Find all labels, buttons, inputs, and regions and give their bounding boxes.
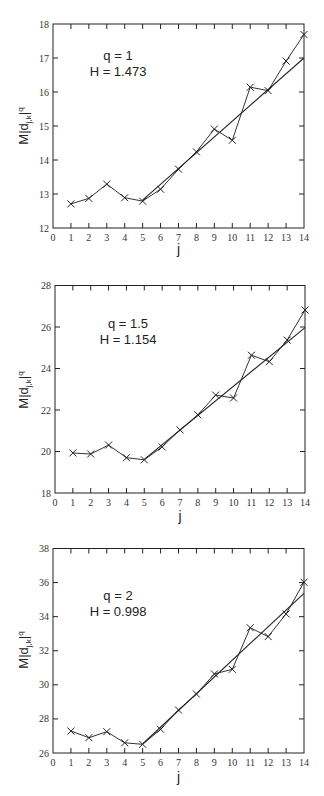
x-tick-label: 12: [263, 757, 273, 768]
chart-q2: 0123456789101112131426283032343638jM|dj,…: [0, 532, 324, 796]
fit-line: [143, 58, 304, 200]
y-tick-label: 16: [39, 87, 49, 98]
x-tick-label: 8: [194, 757, 199, 768]
annotation-q: q = 2: [103, 588, 132, 603]
y-tick-label: 26: [41, 322, 51, 333]
y-tick-label: 34: [39, 611, 49, 622]
x-tick-label: 3: [104, 757, 109, 768]
fit-line: [144, 328, 305, 460]
x-tick-label: 2: [86, 757, 91, 768]
data-point-marker: [103, 181, 110, 188]
x-tick-label: 4: [122, 232, 127, 243]
y-axis-label: M|dj,k|q: [16, 631, 33, 668]
y-tick-label: 15: [39, 121, 49, 132]
annotation-h: H = 1.154: [100, 332, 157, 347]
data-point-marker: [229, 137, 236, 144]
y-axis-label: M|dj,k|q: [16, 371, 33, 408]
x-tick-label: 9: [212, 232, 217, 243]
y-tick-label: 12: [39, 223, 49, 234]
chart-q1-5: 01234567891011121314182022242628jM|dj,k|…: [0, 270, 324, 532]
y-tick-label: 22: [41, 405, 51, 416]
x-tick-label: 2: [86, 232, 91, 243]
x-tick-label: 0: [53, 497, 58, 508]
data-point-marker: [67, 200, 74, 207]
x-tick-label: 0: [51, 757, 56, 768]
data-point-marker: [105, 442, 112, 449]
x-tick-label: 0: [51, 232, 56, 243]
data-point-marker: [103, 728, 110, 735]
data-point-marker: [283, 610, 290, 617]
x-tick-label: 6: [158, 232, 163, 243]
y-tick-label: 26: [39, 748, 49, 759]
annotation-h: H = 0.998: [90, 604, 147, 619]
data-point-marker: [265, 633, 272, 640]
annotation-q: q = 1: [103, 48, 132, 63]
x-axis-label: j: [177, 508, 181, 524]
x-tick-label: 7: [178, 497, 183, 508]
data-point-marker: [283, 58, 290, 65]
x-tick-label: 10: [227, 232, 237, 243]
x-tick-label: 4: [124, 497, 129, 508]
x-tick-label: 11: [247, 497, 257, 508]
x-tick-label: 4: [122, 757, 127, 768]
data-point-marker: [211, 126, 218, 133]
data-point-marker: [85, 734, 92, 741]
annotation-h: H = 1.473: [90, 64, 147, 79]
x-tick-label: 8: [194, 232, 199, 243]
x-tick-label: 14: [299, 757, 309, 768]
x-tick-label: 8: [195, 497, 200, 508]
x-tick-label: 1: [68, 232, 73, 243]
chart-q1: 0123456789101112131412131415161718jM|dj,…: [0, 0, 324, 270]
x-tick-label: 5: [140, 757, 145, 768]
x-tick-label: 5: [140, 232, 145, 243]
x-tick-label: 11: [245, 757, 255, 768]
x-tick-label: 9: [212, 757, 217, 768]
y-tick-label: 30: [39, 679, 49, 690]
y-tick-label: 18: [39, 19, 49, 30]
x-tick-label: 6: [158, 757, 163, 768]
x-tick-label: 10: [227, 757, 237, 768]
y-tick-label: 20: [41, 446, 51, 457]
data-point-marker: [247, 624, 254, 631]
y-tick-label: 24: [41, 363, 51, 374]
x-tick-label: 2: [88, 497, 93, 508]
x-tick-label: 1: [70, 497, 75, 508]
data-point-marker: [67, 728, 74, 735]
y-tick-label: 18: [41, 488, 51, 499]
x-tick-label: 6: [160, 497, 165, 508]
x-tick-label: 5: [142, 497, 147, 508]
y-tick-label: 28: [39, 713, 49, 724]
y-axis-label: M|dj,k|q: [16, 107, 33, 144]
data-point-marker: [85, 195, 92, 202]
y-tick-label: 32: [39, 645, 49, 656]
x-tick-label: 10: [229, 497, 239, 508]
x-tick-label: 14: [300, 497, 310, 508]
x-tick-label: 13: [282, 497, 292, 508]
y-tick-label: 14: [39, 155, 49, 166]
y-tick-label: 38: [39, 543, 49, 554]
data-point-marker: [248, 352, 255, 359]
x-tick-label: 13: [281, 232, 291, 243]
x-tick-label: 14: [299, 232, 309, 243]
x-axis-label: j: [176, 241, 180, 257]
data-point-marker: [229, 666, 236, 673]
x-tick-label: 12: [264, 497, 274, 508]
y-tick-label: 17: [39, 53, 49, 64]
x-tick-label: 3: [104, 232, 109, 243]
x-tick-label: 13: [281, 757, 291, 768]
x-tick-label: 3: [106, 497, 111, 508]
y-tick-label: 36: [39, 577, 49, 588]
x-tick-label: 11: [245, 232, 255, 243]
x-tick-label: 12: [263, 232, 273, 243]
y-tick-label: 28: [41, 280, 51, 291]
x-axis-label: j: [176, 769, 180, 785]
y-tick-label: 13: [39, 189, 49, 200]
x-tick-label: 1: [68, 757, 73, 768]
x-tick-label: 9: [213, 497, 218, 508]
annotation-q: q = 1.5: [108, 316, 148, 331]
x-tick-label: 7: [176, 757, 181, 768]
plot-frame: [53, 549, 304, 754]
fit-line: [143, 593, 304, 744]
plot-frame: [55, 286, 305, 494]
